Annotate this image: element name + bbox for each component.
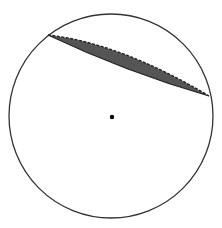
circle-diagram [0, 0, 222, 228]
center-point [110, 115, 114, 119]
shaded-segment [48, 35, 209, 96]
